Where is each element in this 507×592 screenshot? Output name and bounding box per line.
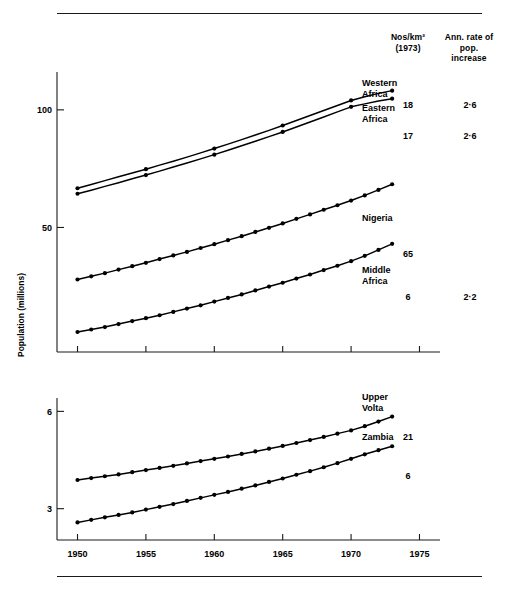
- series-marker: [199, 246, 203, 250]
- series-marker: [144, 508, 148, 512]
- series-marker: [212, 146, 216, 150]
- series-line: [78, 91, 393, 189]
- series-marker: [363, 254, 367, 258]
- series-marker: [89, 274, 93, 278]
- series-marker: [349, 198, 353, 202]
- series-marker: [75, 277, 79, 281]
- series-marker: [390, 97, 394, 101]
- series-marker: [390, 182, 394, 186]
- series-marker: [103, 474, 107, 478]
- series-marker: [130, 319, 134, 323]
- y-tick-label: 6: [47, 407, 52, 417]
- series-marker: [226, 296, 230, 300]
- series-marker: [157, 466, 161, 470]
- series-marker: [253, 483, 257, 487]
- y-tick-label: 100: [37, 105, 52, 115]
- y-tick-label: 50: [42, 223, 52, 233]
- series-marker: [281, 444, 285, 448]
- series-marker: [226, 238, 230, 242]
- series-marker: [363, 193, 367, 197]
- series-line: [78, 244, 393, 332]
- series-marker: [144, 261, 148, 265]
- series-marker: [199, 496, 203, 500]
- series-marker: [103, 271, 107, 275]
- series-marker: [226, 454, 230, 458]
- series-marker: [267, 447, 271, 451]
- series-marker: [240, 487, 244, 491]
- series-marker: [75, 186, 79, 190]
- series-marker: [294, 276, 298, 280]
- lower-panel: 36195019551960196519701975: [47, 398, 440, 559]
- series-marker: [212, 153, 216, 157]
- series-marker: [281, 123, 285, 127]
- series-marker: [267, 480, 271, 484]
- series-marker: [144, 173, 148, 177]
- series-marker: [185, 461, 189, 465]
- series-marker: [376, 419, 380, 423]
- series-marker: [349, 457, 353, 461]
- series-marker: [322, 465, 326, 469]
- series-marker: [116, 322, 120, 326]
- x-tick-label: 1970: [341, 549, 361, 559]
- series-marker: [322, 268, 326, 272]
- series-line: [78, 446, 393, 522]
- series-marker: [89, 476, 93, 480]
- series-marker: [281, 281, 285, 285]
- series-marker: [322, 435, 326, 439]
- series-marker: [75, 520, 79, 524]
- series-marker: [130, 510, 134, 514]
- series-marker: [376, 448, 380, 452]
- series-marker: [171, 253, 175, 257]
- series-marker: [349, 428, 353, 432]
- series-marker: [308, 212, 312, 216]
- series-marker: [171, 502, 175, 506]
- series-marker: [335, 432, 339, 436]
- series-line: [78, 184, 393, 279]
- series-marker: [157, 257, 161, 261]
- series-marker: [349, 105, 353, 109]
- series-marker: [349, 259, 353, 263]
- series-marker: [294, 217, 298, 221]
- series-marker: [199, 459, 203, 463]
- series-marker: [144, 167, 148, 171]
- series-marker: [226, 490, 230, 494]
- series-marker: [294, 441, 298, 445]
- upper-panel: 50100: [37, 72, 440, 352]
- x-tick-label: 1950: [68, 549, 88, 559]
- series-marker: [281, 221, 285, 225]
- series-marker: [308, 438, 312, 442]
- series-marker: [75, 192, 79, 196]
- series-marker: [171, 310, 175, 314]
- series-marker: [75, 330, 79, 334]
- series-marker: [212, 300, 216, 304]
- series-marker: [363, 424, 367, 428]
- x-tick-label: 1955: [136, 549, 156, 559]
- series-marker: [212, 242, 216, 246]
- series-marker: [363, 452, 367, 456]
- x-tick-label: 1975: [409, 549, 429, 559]
- series-marker: [376, 248, 380, 252]
- series-marker: [281, 476, 285, 480]
- series-marker: [89, 327, 93, 331]
- series-marker: [171, 464, 175, 468]
- series-marker: [116, 268, 120, 272]
- series-marker: [308, 272, 312, 276]
- series-line: [78, 99, 393, 194]
- series-marker: [212, 493, 216, 497]
- series-marker: [130, 470, 134, 474]
- series-marker: [89, 518, 93, 522]
- series-marker: [157, 313, 161, 317]
- series-marker: [376, 188, 380, 192]
- series-marker: [240, 234, 244, 238]
- chart-plot-area: 5010036195019551960196519701975: [0, 0, 507, 592]
- series-marker: [185, 499, 189, 503]
- series-marker: [130, 264, 134, 268]
- series-marker: [253, 230, 257, 234]
- series-marker: [349, 98, 353, 102]
- series-marker: [322, 208, 326, 212]
- series-line: [78, 417, 393, 480]
- series-marker: [390, 242, 394, 246]
- y-tick-label: 3: [47, 504, 52, 514]
- series-marker: [116, 513, 120, 517]
- series-marker: [390, 415, 394, 419]
